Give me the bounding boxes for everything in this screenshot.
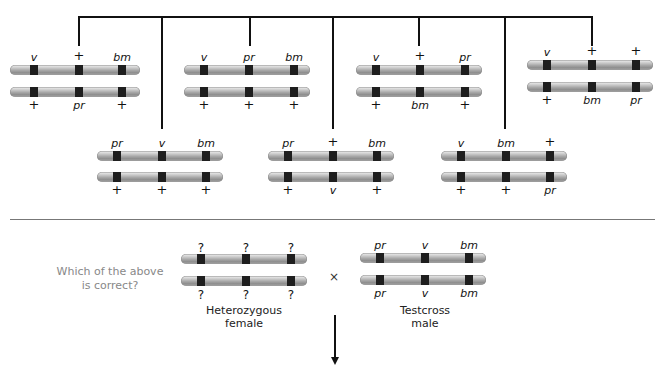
locus-label: + — [201, 184, 212, 196]
bracket-drop-4 — [591, 16, 593, 46]
chromosome-bottom — [527, 82, 653, 92]
locus-label: pr — [459, 52, 471, 64]
bracket-drop-1 — [78, 16, 80, 46]
locus-label: ? — [198, 242, 204, 254]
locus-label: + — [545, 136, 556, 148]
locus-label: v — [330, 185, 337, 197]
locus-label: bm — [497, 138, 515, 150]
chromosome-top — [97, 151, 223, 161]
chromosome-top — [181, 254, 307, 264]
chromosome-bottom — [10, 87, 140, 97]
locus-label: + — [117, 99, 128, 111]
locus-label: + — [74, 50, 85, 62]
locus-label: + — [112, 184, 123, 196]
locus-label: ? — [198, 289, 204, 301]
locus-label: v — [159, 138, 166, 150]
locus-label: ? — [288, 289, 294, 301]
caption-line-1: Heterozygous — [206, 304, 282, 317]
male-caption: Testcross male — [400, 304, 450, 330]
bracket-drop-2 — [249, 16, 251, 46]
cross-symbol: × — [329, 270, 339, 284]
locus-label: + — [289, 99, 300, 111]
locus-label: bm — [460, 240, 478, 252]
locus-label: + — [371, 99, 382, 111]
locus-label: pr — [73, 100, 85, 112]
locus-label: bm — [411, 100, 429, 112]
locus-label: + — [501, 184, 512, 196]
locus-label: + — [415, 50, 426, 62]
bracket-drop-7 — [504, 16, 506, 129]
locus-label: pr — [544, 185, 556, 197]
locus-label: + — [328, 136, 339, 148]
locus-label: + — [244, 99, 255, 111]
locus-label: v — [458, 138, 465, 150]
locus-label: pr — [243, 52, 255, 64]
locus-label: bm — [113, 52, 131, 64]
locus-label: bm — [583, 95, 601, 107]
question-line-2: is correct? — [50, 279, 170, 293]
female-caption: Heterozygous female — [206, 304, 282, 330]
locus-label: + — [542, 94, 553, 106]
locus-label: + — [199, 99, 210, 111]
chromosome-top — [268, 151, 394, 161]
down-arrow-shaft — [334, 315, 336, 357]
chromosome-top — [360, 253, 486, 263]
caption-line-2: male — [400, 317, 450, 330]
chromosome-bottom — [356, 87, 482, 97]
caption-line-2: female — [206, 317, 282, 330]
locus-label: + — [283, 184, 294, 196]
chromosome-bottom — [441, 172, 567, 182]
chromosome-bottom — [268, 172, 394, 182]
locus-label: bm — [460, 288, 478, 300]
locus-label: + — [460, 99, 471, 111]
bracket-horizontal — [78, 16, 593, 18]
locus-label: ? — [243, 289, 249, 301]
bracket-drop-3 — [418, 16, 420, 46]
locus-label: + — [29, 99, 40, 111]
question-line-1: Which of the above — [50, 265, 170, 279]
chromosome-top — [10, 65, 140, 75]
chromosome-bottom — [184, 87, 310, 97]
locus-label: + — [372, 184, 383, 196]
chromosome-top — [356, 65, 482, 75]
down-arrow-icon — [331, 357, 339, 365]
locus-label: pr — [374, 240, 386, 252]
locus-label: v — [544, 47, 551, 59]
section-divider — [10, 219, 655, 220]
locus-label: pr — [282, 138, 294, 150]
locus-label: v — [373, 52, 380, 64]
locus-label: ? — [243, 242, 249, 254]
chromosome-top — [527, 60, 653, 70]
chromosome-top — [441, 151, 567, 161]
locus-label: bm — [197, 138, 215, 150]
locus-label: + — [456, 184, 467, 196]
locus-label: v — [31, 52, 38, 64]
locus-label: pr — [630, 95, 642, 107]
locus-label: + — [587, 45, 598, 57]
locus-label: bm — [368, 138, 386, 150]
chromosome-top — [184, 65, 310, 75]
locus-label: v — [422, 288, 429, 300]
locus-label: + — [157, 184, 168, 196]
locus-label: bm — [285, 52, 303, 64]
caption-line-1: Testcross — [400, 304, 450, 317]
locus-label: ? — [288, 242, 294, 254]
chromosome-bottom — [181, 276, 307, 286]
bracket-drop-5 — [161, 16, 163, 129]
chromosome-bottom — [360, 275, 486, 285]
locus-label: + — [631, 45, 642, 57]
question-text: Which of the above is correct? — [50, 265, 170, 293]
bracket-drop-6 — [332, 16, 334, 129]
locus-label: pr — [374, 288, 386, 300]
locus-label: pr — [111, 138, 123, 150]
locus-label: v — [201, 52, 208, 64]
chromosome-bottom — [97, 172, 223, 182]
locus-label: v — [422, 240, 429, 252]
